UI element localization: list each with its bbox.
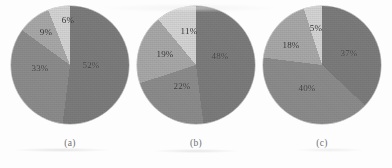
pie-chart-b: 48%22%19%11% (b) — [134, 0, 258, 168]
slice-label: 37% — [340, 48, 357, 58]
pie-wrap-b: 48%22%19%11% — [137, 6, 255, 124]
slice-label: 19% — [156, 49, 173, 59]
pie-chart-figure: 52%33%9%6% (a) 48%22%19%11% (b) 37%40%18… — [0, 0, 392, 168]
slice-label: 33% — [31, 63, 48, 73]
slice-label: 40% — [298, 83, 315, 93]
slice-label: 5% — [310, 23, 322, 33]
slice-label: 11% — [181, 26, 198, 36]
slice-label: 52% — [82, 60, 99, 70]
pie-wrap-a: 52%33%9%6% — [11, 6, 129, 124]
pie-wrap-c: 37%40%18%5% — [263, 6, 381, 124]
slice-label: 48% — [211, 51, 228, 61]
slice-label: 6% — [62, 15, 74, 25]
caption-a: (a) — [8, 138, 132, 148]
caption-b: (b) — [134, 138, 258, 148]
slice-label: 22% — [173, 81, 190, 91]
pie-chart-c: 37%40%18%5% (c) — [260, 0, 384, 168]
pie-b — [137, 6, 255, 124]
slice-label: 18% — [282, 40, 299, 50]
caption-c: (c) — [260, 138, 384, 148]
pie-chart-a: 52%33%9%6% (a) — [8, 0, 132, 168]
slice-label: 9% — [40, 27, 52, 37]
